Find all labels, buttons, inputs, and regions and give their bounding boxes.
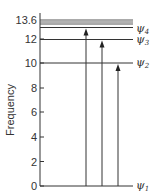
label-psi1: ψ1	[136, 179, 149, 193]
y-axis-label: Frequency	[4, 84, 16, 136]
upper-levels-cluster	[40, 20, 133, 28]
tick-label-6: 6	[31, 106, 37, 118]
tick-label-2: 2	[31, 156, 37, 168]
tick-label-12: 12	[25, 33, 37, 45]
transition-psi1-psi2	[116, 64, 121, 186]
tick-label-13-6: 13.6	[16, 14, 37, 26]
transition-psi1-psi3	[100, 41, 105, 187]
y-ticks	[40, 39, 44, 186]
tick-label-0: 0	[31, 180, 37, 192]
transition-psi1-psi4	[84, 29, 89, 187]
tick-label-8: 8	[31, 82, 37, 94]
tick-label-4: 4	[31, 131, 37, 143]
label-psi2: ψ2	[136, 56, 150, 70]
tick-label-10: 10	[25, 57, 37, 69]
energy-level-diagram: 0 2 4 6 8 10 12 13.6 Frequency ψ4 ψ3 ψ2 …	[0, 0, 155, 193]
